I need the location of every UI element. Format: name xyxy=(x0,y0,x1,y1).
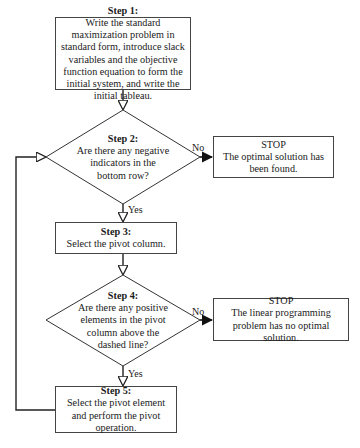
step5-text: Select the pivot element and perform the… xyxy=(56,397,176,434)
step1-text: Write the standard maximization problem … xyxy=(56,17,190,102)
stop1-box: STOP The optimal solution has been found… xyxy=(213,136,334,178)
step4-yes-label: Yes xyxy=(128,368,143,379)
stop2-box: STOP The linear programming problem has … xyxy=(213,298,349,341)
stop1-text: The optimal solution has been found. xyxy=(214,151,333,175)
step3-title: Step 3: xyxy=(56,226,176,238)
step1-box: Step 1: Write the standard maximization … xyxy=(55,17,191,90)
step5-box: Step 5: Select the pivot element and per… xyxy=(55,386,177,433)
step1-title: Step 1: xyxy=(56,5,190,17)
step2-no-label: No xyxy=(192,142,204,153)
stop2-title: STOP xyxy=(214,295,348,307)
step3-text: Select the pivot column. xyxy=(56,238,176,250)
step2-title: Step 2: xyxy=(68,133,178,145)
step4-title: Step 4: xyxy=(68,290,178,302)
step2-yes-label: Yes xyxy=(128,204,143,215)
step3-box: Step 3: Select the pivot column. xyxy=(55,222,177,254)
step4-no-label: No xyxy=(192,306,204,317)
arrow-loop-back xyxy=(16,157,55,410)
stop1-title: STOP xyxy=(214,139,333,151)
step2-text: Are there any negative indicators in the… xyxy=(68,145,178,182)
step4-text: Are there any positive elements in the p… xyxy=(68,302,178,351)
step5-title: Step 5: xyxy=(56,385,176,397)
step4-text-block: Step 4: Are there any positive elements … xyxy=(68,290,178,351)
step2-text-block: Step 2: Are there any negative indicator… xyxy=(68,133,178,182)
stop2-text: The linear programming problem has no op… xyxy=(214,307,348,344)
